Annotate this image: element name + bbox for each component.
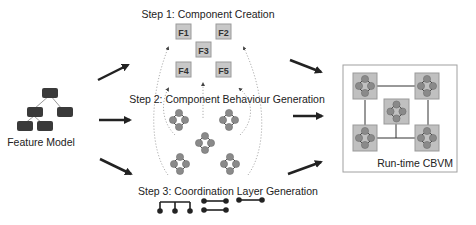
svg-text:F2: F2	[218, 28, 229, 38]
arrow-to-step3	[100, 159, 131, 174]
feature-model-label: Feature Model	[7, 136, 75, 148]
arrow-from-step1	[290, 60, 321, 72]
step3-label: Step 3: Coordination Layer Generation	[138, 185, 318, 197]
step1-label: Step 1: Component Creation	[141, 8, 274, 20]
component-F2: F2	[216, 24, 231, 39]
pipeline-diagram: Feature Model Step 1: Component Creation…	[0, 0, 476, 225]
arrow-to-step1	[98, 65, 128, 80]
arrow-from-step3	[288, 162, 321, 174]
svg-text:F1: F1	[178, 28, 189, 38]
svg-text:F4: F4	[178, 66, 189, 76]
component-F5: F5	[216, 62, 231, 77]
runtime-cbvm-frame	[343, 65, 457, 172]
coordination-connectors	[158, 198, 264, 213]
component-F1: F1	[176, 24, 191, 39]
feature-model-icon	[17, 88, 73, 131]
dotted-feedback-curves	[154, 48, 262, 175]
svg-text:F3: F3	[198, 46, 209, 56]
svg-text:F5: F5	[218, 66, 229, 76]
component-F3: F3	[196, 42, 211, 57]
behaviour-graphs	[169, 109, 239, 174]
component-F4: F4	[176, 62, 191, 77]
runtime-cbvm-label: Run-time CBVM	[377, 157, 453, 169]
step2-label: Step 2: Component Behaviour Generation	[129, 93, 325, 105]
